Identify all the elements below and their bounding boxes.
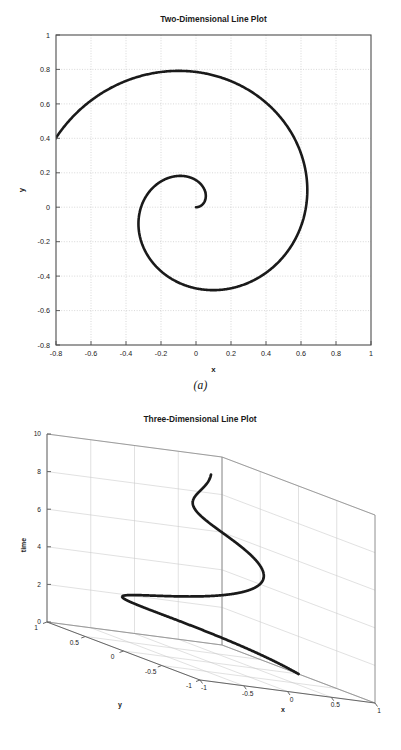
x-tick-label: 1 bbox=[377, 707, 381, 714]
y-tick-label: 0 bbox=[46, 203, 50, 212]
plot-title-3d: Three-Dimensional Line Plot bbox=[143, 414, 256, 424]
x-tick-label: 0.4 bbox=[261, 349, 271, 358]
y-tick-label: 1 bbox=[34, 624, 38, 631]
x-tick-label: 0.2 bbox=[226, 349, 236, 358]
y-tick-label: -1 bbox=[186, 682, 192, 689]
three-dimensional-line-plot-svg: 0 2 4 6 8 10 1 0.5 0 -0.5 -1 -1 -0.5 0 0… bbox=[0, 400, 401, 750]
y-axis-title-2d: y bbox=[17, 187, 26, 192]
y-tick-label: 0.2 bbox=[40, 168, 50, 177]
x-axis-tick-labels-2d: -0.8 -0.6 -0.4 -0.2 0 0.2 0.4 0.6 0.8 1 bbox=[50, 349, 373, 358]
x-tick-label: 0 bbox=[290, 696, 294, 703]
z-tick-label: 4 bbox=[37, 543, 41, 550]
x-tick-label: -0.5 bbox=[242, 690, 254, 697]
z-axis-title-3d: time bbox=[20, 538, 27, 553]
y-tick-label: 0.4 bbox=[40, 134, 50, 143]
z-tick-label: 6 bbox=[37, 506, 41, 513]
x-tick-label: 0.5 bbox=[331, 701, 340, 708]
x-axis-title-3d: x bbox=[281, 706, 285, 713]
y-tick-label: -0.5 bbox=[145, 668, 157, 675]
z-tick-label: 2 bbox=[37, 581, 41, 588]
y-axis-tick-labels-2d: 1 0.8 0.6 0.4 0.2 0 -0.2 -0.4 -0.6 -0.8 bbox=[38, 31, 50, 350]
y-tick-label: 0 bbox=[111, 653, 115, 660]
z-tick-label: 10 bbox=[34, 430, 42, 437]
y-tick-label: -0.8 bbox=[38, 341, 50, 350]
plot-title-2d: Two-Dimensional Line Plot bbox=[160, 14, 267, 24]
two-dimensional-line-plot-svg: -0.8 -0.6 -0.4 -0.2 0 0.2 0.4 0.6 0.8 1 … bbox=[0, 0, 401, 400]
figure-two-dimensional-line-plot: -0.8 -0.6 -0.4 -0.2 0 0.2 0.4 0.6 0.8 1 … bbox=[0, 0, 401, 400]
z-axis-tick-labels-3d: 0 2 4 6 8 10 bbox=[34, 430, 42, 625]
x-tick-label: -0.4 bbox=[120, 349, 132, 358]
x-tick-label: -0.2 bbox=[155, 349, 167, 358]
x-tick-label: 0 bbox=[194, 349, 198, 358]
z-tick-label: 0 bbox=[37, 618, 41, 625]
x-axis-title-2d: x bbox=[211, 365, 216, 374]
y-tick-label: -0.6 bbox=[38, 306, 50, 315]
x-tick-label: 0.6 bbox=[296, 349, 306, 358]
y-tick-label: -0.2 bbox=[38, 237, 50, 246]
y-tick-label: 1 bbox=[46, 31, 50, 40]
x-tick-label: 0.8 bbox=[331, 349, 341, 358]
x-tick-label: 1 bbox=[369, 349, 373, 358]
figure-three-dimensional-line-plot: 0 2 4 6 8 10 1 0.5 0 -0.5 -1 -1 -0.5 0 0… bbox=[0, 400, 401, 750]
y-tick-label: 0.5 bbox=[70, 639, 79, 646]
figure-caption-a: (a) bbox=[0, 379, 401, 391]
y-tick-label: 0.8 bbox=[40, 65, 50, 74]
y-tick-label: -0.4 bbox=[38, 272, 50, 281]
y-axis-title-3d: y bbox=[118, 701, 122, 709]
x-tick-label: -0.6 bbox=[85, 349, 97, 358]
y-tick-label: 0.6 bbox=[40, 100, 50, 109]
z-tick-label: 8 bbox=[37, 468, 41, 475]
x-tick-label: -0.8 bbox=[50, 349, 62, 358]
plot-area-background-2d bbox=[56, 35, 371, 345]
x-tick-label: -1 bbox=[201, 684, 207, 691]
